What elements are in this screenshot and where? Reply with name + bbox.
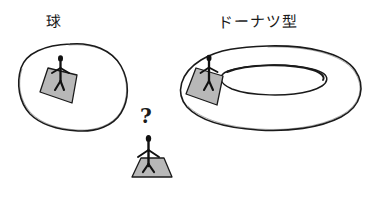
figure-canvas: 球 ドーナツ型 ? — [0, 0, 371, 197]
torus-group — [181, 46, 361, 131]
label-sphere: 球 — [46, 10, 62, 31]
sphere-group — [19, 44, 128, 131]
question-mark: ? — [140, 104, 152, 128]
label-torus: ドーナツ型 — [218, 9, 298, 31]
observer-group — [132, 135, 172, 177]
